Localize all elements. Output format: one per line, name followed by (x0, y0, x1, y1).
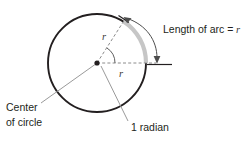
center-label-line2: of circle (6, 116, 42, 128)
radius-angled-dashed (97, 22, 124, 64)
radian-diagram: r r Length of arc = r Center of circle 1… (0, 0, 252, 143)
radius-label-lower: r (119, 68, 124, 79)
arc-length-variable: r (236, 24, 241, 35)
highlighted-arc (124, 22, 147, 64)
angle-leader-line (101, 66, 128, 121)
radius-label-upper: r (102, 31, 107, 42)
arc-measure-arrow (128, 19, 158, 59)
center-label-line1: Center (6, 101, 38, 113)
angle-arc-indicator (107, 48, 115, 63)
arc-length-label: Length of arc = (163, 23, 233, 35)
angle-label: 1 radian (131, 121, 169, 133)
